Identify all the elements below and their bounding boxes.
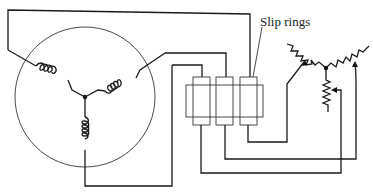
wiper-arrow-bottom [331,87,337,93]
coil-upper-left [8,50,85,97]
coil-bottom [82,65,172,186]
wire-to-slip-ring-1 [172,65,202,77]
slip-rings-label: Slip rings [260,14,310,30]
wire-ring2-to-rheostat-right [225,64,356,159]
wire-ring3-to-rheostat-left [248,62,304,142]
wire-ring1-to-rheostat-bottom [201,90,341,173]
slip-ring-3 [240,77,257,125]
wiper-arrow-right [352,61,358,67]
rheostat-network [287,44,369,112]
slip-ring-1 [193,77,210,125]
slip-ring-2 [216,77,233,125]
slip-rings-leader-line [253,27,262,77]
coil-upper-right [85,53,165,97]
slip-ring-motor-diagram [0,0,373,195]
slip-ring-assembly [186,77,263,125]
